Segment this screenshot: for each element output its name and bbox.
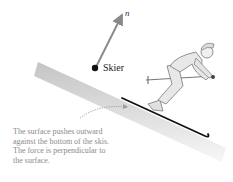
normal-force-vector xyxy=(96,15,122,67)
caption-line: The force is perpendicular to xyxy=(13,146,153,156)
skier-particle-dot xyxy=(92,65,98,71)
normal-force-label: n⃗ xyxy=(125,8,137,18)
caption-line: The surface pushes outward xyxy=(13,127,153,137)
normal-force-diagram: n⃗ Skier The surface pushes outward agai… xyxy=(0,0,233,182)
skier-label: Skier xyxy=(103,62,124,73)
caption-line: against the bottom of the skis. xyxy=(13,137,153,147)
caption-line: the surface. xyxy=(13,156,153,166)
caption: The surface pushes outward against the b… xyxy=(13,127,153,165)
